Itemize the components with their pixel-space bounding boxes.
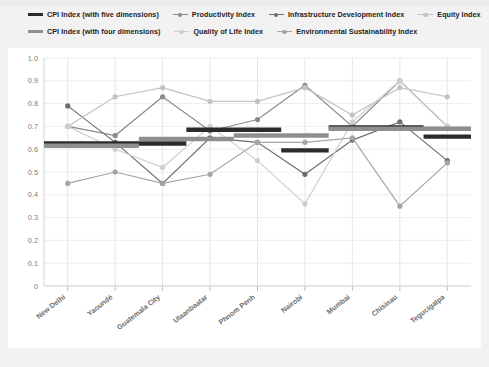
legend-line-dot-swatch-icon xyxy=(418,10,433,19)
data-point xyxy=(255,99,260,104)
x-axis-tick-label: Phnom Penh xyxy=(217,292,257,326)
data-point xyxy=(397,85,402,90)
y-axis-tick-label: 0.5 xyxy=(28,168,38,177)
data-point xyxy=(255,158,260,163)
legend-row: CPI Index (with five dimensions)Producti… xyxy=(0,6,489,23)
legend-line-dot-swatch-icon xyxy=(269,10,284,19)
legend-row: CPI Index (with four dimensions)Quality … xyxy=(0,23,489,40)
legend-item[interactable]: Equity Index xyxy=(418,10,480,19)
data-point xyxy=(207,172,212,177)
legend-item-label: Infrastructure Development Index xyxy=(288,10,404,19)
data-point xyxy=(160,181,165,186)
data-point xyxy=(302,85,307,90)
chart-legend: CPI Index (with five dimensions)Producti… xyxy=(0,6,489,46)
data-point xyxy=(397,119,402,124)
x-axis-tick-label: Yaoundé xyxy=(85,292,114,318)
x-axis-tick-label: Ulaanbaatar xyxy=(171,292,209,325)
legend-line-dot-swatch-icon xyxy=(173,10,188,19)
y-axis-tick-label: 0.4 xyxy=(28,190,38,199)
data-point xyxy=(160,85,165,90)
legend-line-dot-swatch-icon xyxy=(277,27,292,36)
data-point xyxy=(65,181,70,186)
data-point xyxy=(113,94,118,99)
x-axis-tick-label: Guatemala City xyxy=(115,292,162,331)
data-point xyxy=(350,135,355,140)
data-point xyxy=(255,140,260,145)
data-point xyxy=(350,119,355,124)
legend-item-label: Environmental Sustainability Index xyxy=(296,27,417,36)
data-point xyxy=(302,172,307,177)
data-point xyxy=(160,94,165,99)
x-axis-tick-label: Tegucigalpa xyxy=(408,292,447,325)
legend-item[interactable]: Infrastructure Development Index xyxy=(269,10,404,19)
y-axis-tick-label: 0.8 xyxy=(28,99,38,108)
data-point xyxy=(255,117,260,122)
y-axis-tick-label: 0.3 xyxy=(28,213,38,222)
x-axis-tick-label: Nairobi xyxy=(279,292,304,314)
legend-item-label: Equity Index xyxy=(437,10,480,19)
line-chart-svg: 00.10.20.30.40.50.60.70.80.91.0New Delhi… xyxy=(8,48,481,348)
legend-item-label: CPI Index (with five dimensions) xyxy=(47,10,159,19)
data-point xyxy=(65,103,70,108)
data-point xyxy=(397,78,402,83)
legend-line-dot-swatch-icon xyxy=(174,27,189,36)
plot-area: 00.10.20.30.40.50.60.70.80.91.0New Delhi… xyxy=(8,48,481,348)
data-point xyxy=(350,112,355,117)
x-axis-tick-label: Mumbai xyxy=(325,292,352,316)
legend-item[interactable]: Productivity Index xyxy=(173,10,255,19)
y-axis-tick-label: 0.9 xyxy=(28,76,38,85)
grid-lines xyxy=(44,58,471,286)
data-point xyxy=(445,94,450,99)
footer-decoration-strip xyxy=(0,351,489,367)
data-point xyxy=(302,140,307,145)
legend-bar-swatch-icon xyxy=(28,10,43,19)
data-point xyxy=(445,160,450,165)
y-axis-tick-label: 0 xyxy=(34,282,38,291)
legend-item[interactable]: Environmental Sustainability Index xyxy=(277,27,417,36)
data-point xyxy=(160,165,165,170)
y-axis-tick-label: 0.1 xyxy=(28,259,38,268)
x-axis-tick-label: Chisinau xyxy=(370,292,399,318)
y-axis-tick-label: 0.2 xyxy=(28,236,38,245)
legend-item[interactable]: CPI Index (with four dimensions) xyxy=(28,27,160,36)
legend-item-label: Quality of Life Index xyxy=(193,27,263,36)
data-point xyxy=(113,169,118,174)
y-axis-tick-label: 1.0 xyxy=(28,54,38,63)
legend-item[interactable]: Quality of Life Index xyxy=(174,27,263,36)
legend-item-label: Productivity Index xyxy=(192,10,255,19)
legend-item[interactable]: CPI Index (with five dimensions) xyxy=(28,10,159,19)
y-axis-tick-label: 0.6 xyxy=(28,145,38,154)
data-point xyxy=(397,204,402,209)
legend-item-label: CPI Index (with four dimensions) xyxy=(47,27,160,36)
data-point xyxy=(65,124,70,129)
legend-bar-swatch-icon xyxy=(28,27,43,36)
y-axis-tick-label: 0.7 xyxy=(28,122,38,131)
x-axis-tick-label: New Delhi xyxy=(34,292,67,320)
data-point xyxy=(113,133,118,138)
data-point xyxy=(207,99,212,104)
data-point xyxy=(302,201,307,206)
